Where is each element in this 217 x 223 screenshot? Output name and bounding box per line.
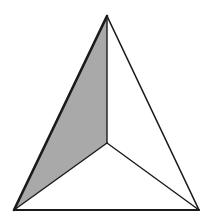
tetrahedron-diagram <box>0 0 217 223</box>
diagram-canvas <box>0 0 217 223</box>
